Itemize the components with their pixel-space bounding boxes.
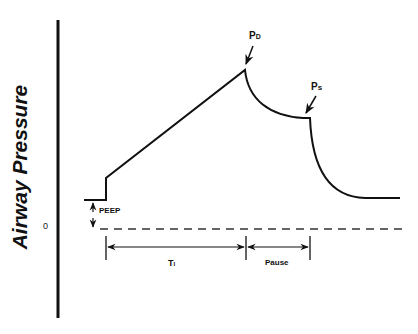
y-axis-label: Airway Pressure [8,85,32,250]
pause-label: Pause [265,258,289,267]
peak-pressure-label: PD [249,30,261,41]
peak-pressure-arrow [246,46,253,64]
pressure-waveform [84,70,400,200]
plateau-pressure-arrow [306,96,316,113]
zero-label: 0 [43,221,48,231]
ti-label: TI [168,258,175,268]
peep-label: PEEP [99,206,120,215]
airway-pressure-diagram [0,0,418,334]
plateau-pressure-label: Ps [311,81,322,92]
